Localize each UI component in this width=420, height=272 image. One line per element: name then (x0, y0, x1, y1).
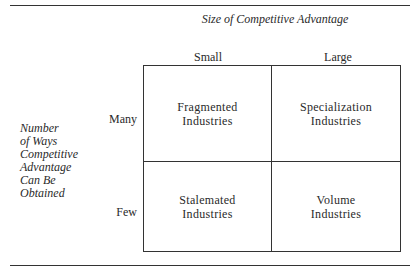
column-label-large: Large (273, 50, 403, 65)
cell-text: Industries (179, 207, 235, 221)
cell-text: Industries (300, 114, 372, 128)
x-axis-title: Size of Competitive Advantage (150, 12, 400, 27)
cell-text: Stalemated (179, 193, 235, 207)
column-label-small: Small (143, 50, 273, 65)
y-axis-line: Obtained (20, 187, 78, 200)
cell-fragmented-industries: FragmentedIndustries (144, 66, 272, 162)
cell-volume-industries: VolumeIndustries (272, 162, 400, 251)
cell-text: Industries (311, 207, 361, 221)
bottom-rule (10, 265, 410, 266)
row-label-few: Few (97, 205, 137, 220)
row-label-many: Many (97, 112, 137, 127)
cell-text: Industries (177, 114, 237, 128)
top-rule (10, 5, 410, 6)
cell-stalemated-industries: StalematedIndustries (144, 162, 272, 251)
cell-text: Specialization (300, 100, 372, 114)
cell-specialization-industries: SpecializationIndustries (272, 66, 400, 162)
cell-text: Fragmented (177, 100, 237, 114)
matrix-grid: FragmentedIndustries SpecializationIndus… (143, 65, 401, 252)
y-axis-title: Number of Ways Competitive Advantage Can… (20, 122, 78, 200)
cell-text: Volume (311, 193, 361, 207)
